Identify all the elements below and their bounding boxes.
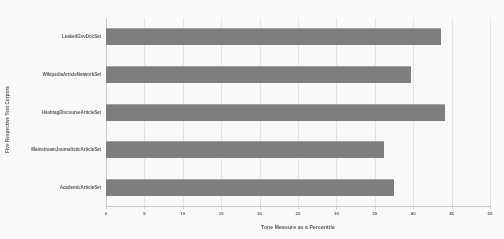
x-axis-tick-labels: 05101520253035404550 <box>106 209 490 219</box>
y-axis-title: Five Respective Text Corpora <box>0 0 14 239</box>
bar-AcademicArticleSet <box>106 179 394 196</box>
x-tick-label-0: 0 <box>96 211 116 216</box>
x-tick-mark-20 <box>260 206 261 209</box>
x-tick-label-10: 10 <box>173 211 193 216</box>
category-label-HashtagDiscourseArticleSet: HashtagDiscourseArticleSet <box>42 108 101 117</box>
x-tick-mark-5 <box>144 206 145 209</box>
y-axis-category-labels: AcademicArticleSetMainstreamJournalistic… <box>18 18 104 206</box>
x-tick-label-35: 35 <box>365 211 385 216</box>
x-tick-mark-35 <box>375 206 376 209</box>
category-label-LeakedGovDocSet: LeakedGovDocSet <box>62 32 101 41</box>
x-axis-title: Tone Measure as a Percentile <box>106 224 490 230</box>
bar-WikipediaArticleNetworkSet <box>106 66 411 83</box>
x-tick-mark-15 <box>221 206 222 209</box>
x-tick-label-15: 15 <box>211 211 231 216</box>
bar-LeakedGovDocSet <box>106 28 441 45</box>
x-tick-mark-10 <box>183 206 184 209</box>
x-tick-label-50: 50 <box>480 211 500 216</box>
x-tick-mark-0 <box>106 206 107 209</box>
bar-chart-figure: Five Respective Text Corpora AcademicArt… <box>0 0 504 239</box>
gridline-45 <box>452 18 453 206</box>
bar-HashtagDiscourseArticleSet <box>106 104 445 121</box>
bar-MainstreamJournalisticArticleSet <box>106 141 384 158</box>
x-tick-mark-30 <box>336 206 337 209</box>
x-tick-label-40: 40 <box>403 211 423 216</box>
x-tick-mark-40 <box>413 206 414 209</box>
category-label-MainstreamJournalisticArticleSet: MainstreamJournalisticArticleSet <box>31 145 101 154</box>
x-tick-mark-45 <box>452 206 453 209</box>
x-tick-mark-50 <box>490 206 491 209</box>
x-tick-label-20: 20 <box>250 211 270 216</box>
x-tick-label-30: 30 <box>326 211 346 216</box>
x-tick-mark-25 <box>298 206 299 209</box>
plot-area <box>106 18 490 206</box>
x-tick-label-45: 45 <box>442 211 462 216</box>
category-label-AcademicArticleSet: AcademicArticleSet <box>60 183 101 192</box>
gridline-50 <box>490 18 491 206</box>
x-tick-label-5: 5 <box>134 211 154 216</box>
x-tick-label-25: 25 <box>288 211 308 216</box>
category-label-WikipediaArticleNetworkSet: WikipediaArticleNetworkSet <box>43 70 101 79</box>
